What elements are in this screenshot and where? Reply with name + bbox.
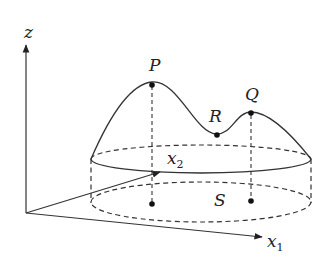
x1-axis-label: x1 [267,231,284,254]
point-r [214,132,220,138]
cylinder-top-front [91,159,311,173]
surface-curve [91,82,311,159]
cylinder-top-back [91,145,311,159]
region-s-boundary [91,182,311,222]
point-p [149,82,155,88]
x2-axis-label: x2 [167,148,184,171]
z-axis-label: z [23,22,34,42]
x1-axis [26,213,262,237]
point-p-projection [149,201,155,207]
region-s-label: S [214,190,226,210]
point-q-projection [248,198,254,204]
point-r-label: R [208,106,222,126]
point-q [248,110,254,116]
point-q-label: Q [245,84,259,104]
point-p-label: P [148,55,161,75]
surface-over-region-diagram: z P Q R S x2 x1 [0,0,329,272]
x2-axis [26,172,160,213]
